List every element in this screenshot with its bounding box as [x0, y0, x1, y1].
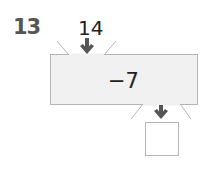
- output-funnel-right: [180, 104, 191, 119]
- answer-value: [146, 123, 178, 155]
- input-funnel-right: [104, 41, 116, 55]
- output-funnel-left: [131, 104, 143, 119]
- input-funnel-left: [57, 41, 69, 55]
- operation-label: −7: [108, 69, 139, 93]
- down-arrow-icon: [80, 38, 94, 54]
- problem-number: 13: [13, 15, 40, 39]
- input-value: 14: [78, 16, 103, 40]
- down-arrow-icon: [154, 105, 168, 119]
